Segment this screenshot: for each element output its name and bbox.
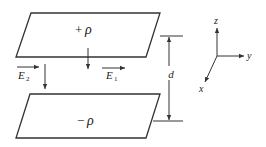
bottom-plate: − ρ — [16, 94, 160, 138]
e2-sub: 2 — [26, 75, 30, 83]
e2-letter: E — [17, 69, 25, 81]
e1-vector: E 1 — [102, 68, 125, 83]
e1-sub: 1 — [114, 75, 118, 83]
top-plate-rho: ρ — [84, 22, 92, 37]
coordinate-axes: z y x — [198, 15, 252, 94]
separation-label: d — [168, 68, 174, 80]
separation-dimension: d — [153, 36, 183, 121]
bottom-plate-sign: − — [77, 113, 84, 128]
e1-letter: E — [105, 69, 113, 81]
e2-vector: E 2 — [17, 67, 39, 83]
x-axis-icon — [205, 56, 217, 82]
parallel-plates-diagram: + ρ − ρ E 2 E 1 d z y x — [0, 0, 266, 147]
top-plate-sign: + — [75, 22, 82, 37]
y-axis-label: y — [246, 50, 252, 61]
z-axis-label: z — [213, 15, 218, 26]
bottom-plate-rho: ρ — [86, 113, 94, 128]
x-axis-label: x — [198, 83, 204, 94]
